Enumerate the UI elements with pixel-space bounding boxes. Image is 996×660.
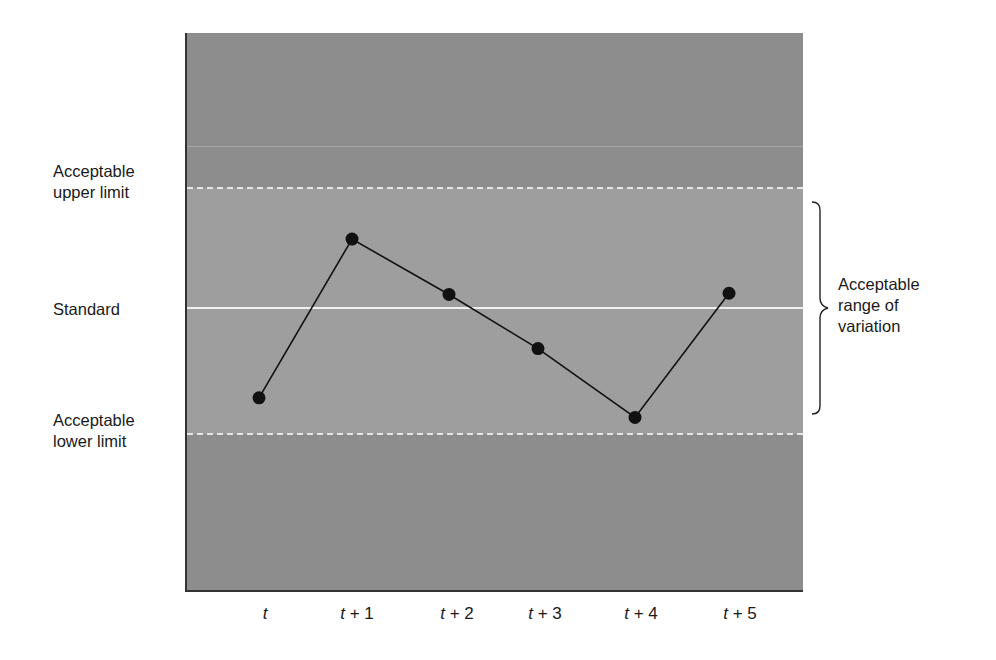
data-point-4 <box>629 411 642 424</box>
upper-limit-label-line1: Acceptable <box>53 161 135 182</box>
range-label-line1: Acceptable <box>838 274 920 295</box>
x-tick-t3: t + 3 <box>515 604 575 624</box>
x-tick-t4: t + 4 <box>611 604 671 624</box>
range-of-variation-label: Acceptable range of variation <box>838 274 920 337</box>
control-chart-plot-area <box>185 33 803 592</box>
data-point-2 <box>443 288 456 301</box>
lower-limit-label-line1: Acceptable <box>53 410 135 431</box>
range-brace-icon <box>808 200 838 420</box>
x-tick-t5: t + 5 <box>710 604 770 624</box>
data-point-1 <box>346 233 359 246</box>
performance-series <box>187 33 805 592</box>
upper-limit-label: Acceptable upper limit <box>53 161 135 203</box>
x-tick-t0: t <box>235 604 295 624</box>
lower-limit-label: Acceptable lower limit <box>53 410 135 452</box>
data-point-0 <box>253 391 266 404</box>
range-label-line2: range of <box>838 295 920 316</box>
upper-limit-label-line2: upper limit <box>53 182 135 203</box>
lower-limit-label-line2: lower limit <box>53 431 135 452</box>
data-point-3 <box>532 342 545 355</box>
range-label-line3: variation <box>838 316 920 337</box>
data-point-5 <box>723 287 736 300</box>
standard-label: Standard <box>53 299 120 320</box>
x-tick-t2: t + 2 <box>427 604 487 624</box>
x-tick-t1: t + 1 <box>327 604 387 624</box>
